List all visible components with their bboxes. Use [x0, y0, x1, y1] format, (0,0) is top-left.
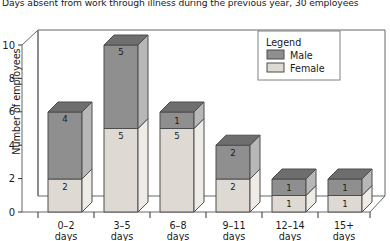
bar-group-15-plus-days[interactable]: 1 1	[328, 169, 372, 212]
x-label-5-unit: days	[333, 231, 356, 241]
bar-value-male-15-plus: 1	[342, 183, 347, 193]
bar-value-male-6-8: 1	[174, 116, 179, 126]
absence-bar-chart: Days absent from work through illness du…	[0, 0, 390, 241]
y-tick-label-0: 0	[9, 207, 15, 218]
x-label-2-range: 6–8	[169, 220, 186, 231]
y-tick-label-2: 2	[9, 173, 15, 184]
bar-group-0-2-days[interactable]: 4 2	[48, 102, 92, 212]
bar-value-female-3-5: 5	[118, 131, 123, 141]
x-label-0-unit: days	[55, 231, 78, 241]
bar-value-male-0-2: 4	[62, 114, 67, 124]
y-tick-label-10: 10	[2, 40, 15, 51]
legend-entry-male[interactable]: Male	[267, 50, 313, 61]
legend-swatch-female	[267, 63, 284, 72]
bar-value-female-6-8: 5	[174, 131, 179, 141]
legend-entry-female[interactable]: Female	[267, 63, 325, 74]
bar-male-side-3-5	[138, 35, 148, 129]
x-label-1-range: 3–5	[113, 220, 130, 231]
bar-female-side-6-8	[194, 119, 204, 213]
bar-value-female-15-plus: 1	[342, 199, 347, 209]
y-tick-label-6: 6	[9, 106, 15, 117]
legend-label-female: Female	[290, 63, 325, 74]
x-label-3-range: 9–11	[222, 220, 245, 231]
x-label-3-unit: days	[223, 231, 246, 241]
bar-value-male-12-14: 1	[286, 183, 291, 193]
bar-value-female-0-2: 2	[62, 182, 67, 192]
x-label-1-unit: days	[111, 231, 134, 241]
bar-female-6-8	[160, 129, 194, 213]
plot-area: 0 2 4 6 8 10 4 2	[0, 0, 390, 241]
bar-value-male-3-5: 5	[118, 47, 123, 57]
legend[interactable]: Legend Male Female	[258, 31, 340, 80]
legend-label-male: Male	[290, 50, 313, 61]
bar-male-3-5	[104, 45, 138, 129]
bar-group-12-14-days[interactable]: 1 1	[272, 169, 316, 212]
x-axis-labels: 0–2 days 3–5 days 6–8 days 9–11 days 12–…	[55, 220, 356, 241]
bar-value-male-9-11: 2	[230, 148, 235, 158]
x-label-4-unit: days	[279, 231, 302, 241]
x-axis-ticks	[38, 212, 370, 218]
x-label-0-range: 0–2	[57, 220, 74, 231]
x-label-5-range: 15+	[334, 220, 354, 231]
legend-swatch-male	[267, 50, 284, 59]
bar-group-9-11-days[interactable]: 2 2	[216, 135, 260, 212]
x-label-4-range: 12–14	[275, 220, 304, 231]
bar-female-3-5	[104, 129, 138, 213]
bar-group-6-8-days[interactable]: 1 5	[160, 102, 204, 212]
bar-value-female-12-14: 1	[286, 199, 291, 209]
x-label-2-unit: days	[167, 231, 190, 241]
y-axis-ticks: 0 2 4 6 8 10	[2, 40, 22, 218]
bar-female-side-3-5	[138, 119, 148, 213]
bar-value-female-9-11: 2	[230, 182, 235, 192]
y-tick-label-8: 8	[9, 73, 15, 84]
bar-male-side-0-2	[82, 102, 92, 179]
y-tick-label-4: 4	[9, 140, 15, 151]
bar-group-3-5-days[interactable]: 5 5	[104, 35, 148, 212]
wall-top-diagonal	[22, 30, 38, 45]
legend-title: Legend	[266, 37, 301, 48]
